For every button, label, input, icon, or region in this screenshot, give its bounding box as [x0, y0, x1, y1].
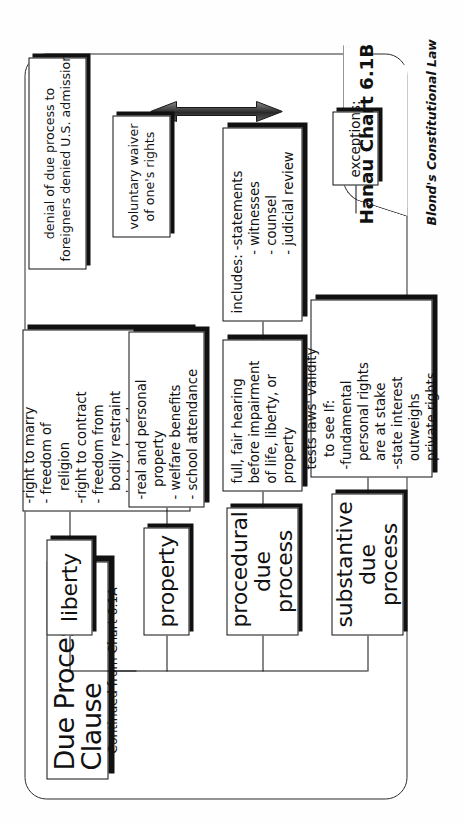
liberty-label: liberty: [58, 547, 81, 627]
substantive-detail-text: tests laws' validity to see If: -fundame…: [302, 307, 439, 469]
connector-property: [166, 635, 167, 671]
connector-procedural: [262, 635, 263, 671]
brand-label: Blond's Constitutional Law: [423, 39, 438, 225]
branch-spine: [69, 670, 367, 671]
detail-procedural-includes: includes: -statements - witnesses - coun…: [222, 127, 302, 321]
procedural-detail-text: full, fair hearing before impairment of …: [228, 347, 297, 483]
connector-procedural-includes: [262, 321, 263, 339]
detail-property: -real and personal property - welfare be…: [128, 331, 204, 507]
exception-item-waiver: voluntary waiver of one's rights: [112, 115, 170, 237]
chart-page: Due Process Clause Continued from Chart …: [0, 0, 463, 825]
branch-label-property: property: [143, 527, 189, 635]
branch-label-procedural: procedural due process: [226, 507, 298, 635]
procedural-includes-text: includes: -statements - witnesses - coun…: [228, 135, 297, 313]
procedural-label: procedural due process: [228, 515, 297, 627]
connector-procedural-detail: [262, 491, 263, 507]
exception-foreigners-text: denial of due process to foreigners deni…: [41, 65, 74, 261]
exception-item-foreigners: denial of due process to foreigners deni…: [28, 57, 86, 269]
connector-liberty: [69, 635, 70, 671]
detail-substantive: tests laws' validity to see If: -fundame…: [310, 299, 432, 477]
connector-property-detail: [166, 507, 167, 527]
branch-label-substantive: substantive due process: [331, 493, 403, 635]
property-detail-text: -real and personal property - welfare be…: [132, 339, 201, 499]
substantive-label: substantive due process: [333, 501, 402, 627]
branch-label-liberty: liberty: [46, 539, 92, 635]
connector-substantive-detail: [367, 477, 368, 493]
property-label: property: [155, 535, 178, 627]
exception-waiver-text: voluntary waiver of one's rights: [125, 123, 158, 229]
connector-substantive: [367, 635, 368, 671]
detail-procedural: full, fair hearing before impairment of …: [222, 339, 302, 491]
chart-id-label: Hanau Chart 6.1B: [355, 43, 376, 224]
connector-liberty-detail: [69, 511, 70, 539]
screenshot-viewport: Due Process Clause Continued from Chart …: [0, 0, 463, 825]
